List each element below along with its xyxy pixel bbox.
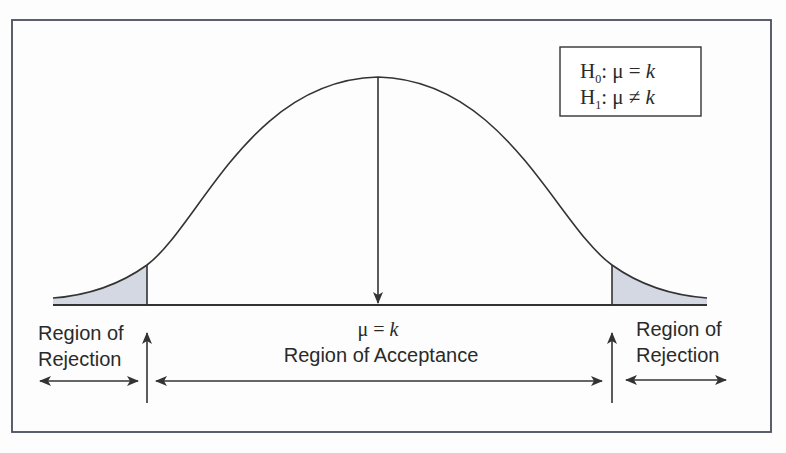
right-rejection-label-line1: Region of — [636, 318, 722, 340]
right-rejection-shade — [612, 265, 707, 305]
right-rejection-label-line2: Rejection — [636, 344, 719, 366]
null-hypothesis: H0: μ = k — [580, 59, 656, 86]
acceptance-region-label: Region of Acceptance — [284, 344, 479, 366]
left-rejection-label-line1: Region of — [38, 322, 124, 344]
alternative-hypothesis: H1: μ ≠ k — [580, 85, 656, 112]
mean-label: μ = k — [358, 318, 400, 341]
left-rejection-label-line2: Rejection — [38, 348, 121, 370]
left-rejection-shade — [53, 265, 147, 305]
hypothesis-test-diagram: H0: μ = k H1: μ ≠ k μ = k Region of Acce… — [0, 0, 786, 453]
